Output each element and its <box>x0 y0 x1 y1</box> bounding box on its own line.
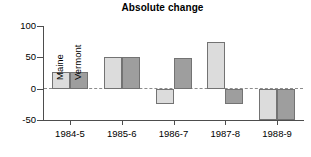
plot-area: MaineVermont <box>44 26 303 120</box>
chart-container: Absolute change 100500-50 MaineVermont 1… <box>0 0 311 157</box>
bar-vermont-1986-7 <box>174 58 192 89</box>
x-axis-tick <box>122 120 123 125</box>
series-label-vermont: Vermont <box>72 44 83 79</box>
x-axis-tick-label: 1988-9 <box>247 128 307 139</box>
y-axis-tick <box>37 89 44 90</box>
y-axis-tick <box>37 120 44 121</box>
bar-maine-1987-8 <box>207 42 225 89</box>
y-axis-tick <box>37 57 44 58</box>
chart-title: Absolute change <box>0 2 311 13</box>
bar-maine-1985-6 <box>104 57 122 88</box>
bar-vermont-1987-8 <box>225 89 243 105</box>
series-label-maine: Maine <box>54 54 65 80</box>
bar-maine-1988-9 <box>259 89 277 120</box>
bar-maine-1986-7 <box>156 89 174 105</box>
y-axis-tick-label: 100 <box>0 21 36 30</box>
y-axis-tick <box>37 26 44 27</box>
y-axis-tick-label: -50 <box>0 115 36 124</box>
x-axis-tick <box>225 120 226 125</box>
y-axis-tick-label: 0 <box>0 84 36 93</box>
bar-vermont-1985-6 <box>122 57 140 88</box>
y-axis-tick-label: 50 <box>0 52 36 61</box>
x-axis-tick <box>174 120 175 125</box>
bar-vermont-1988-9 <box>277 89 295 120</box>
x-axis-tick <box>70 120 71 125</box>
x-axis-tick <box>277 120 278 125</box>
y-axis-labels: 100500-50 <box>0 0 36 157</box>
